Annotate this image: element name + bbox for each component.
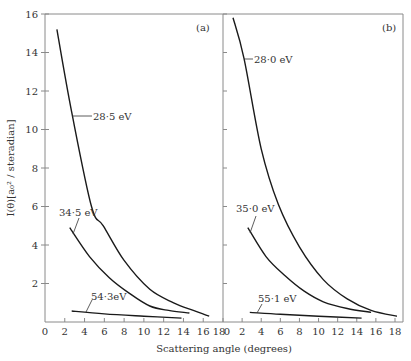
- curve-label-a2: 34·5 eV: [59, 207, 98, 218]
- curve-label-a1: 28·5 eV: [93, 111, 132, 122]
- panel-label-b: (b): [382, 22, 396, 33]
- x-axis-ticks: 024681012141618024681012141618: [42, 318, 402, 337]
- y-tick-label: 14: [25, 47, 38, 58]
- y-tick-label: 8: [32, 163, 38, 174]
- x-tick-label: 4: [258, 326, 264, 337]
- x-tick-label: 16: [370, 326, 383, 337]
- x-tick-label: 6: [101, 326, 107, 337]
- scattering-chart: 246810121416 024681012141618024681012141…: [0, 0, 411, 361]
- x-tick-label: 6: [277, 326, 283, 337]
- panel-label-a: (a): [196, 22, 210, 33]
- y-tick-label: 10: [25, 124, 38, 135]
- curve-34-5-ev: [70, 228, 190, 313]
- x-tick-label: 8: [296, 326, 302, 337]
- y-tick-label: 12: [25, 86, 38, 97]
- curve-label-b2: 35·0 eV: [236, 203, 275, 214]
- x-tick-label: 16: [197, 326, 210, 337]
- curve-54-3ev: [72, 311, 182, 318]
- curve-28-5-ev: [57, 29, 209, 316]
- curve-55-1-ev: [250, 312, 362, 318]
- y-axis-title: I(θ)[a₀² / steradian]: [5, 119, 16, 216]
- x-tick-label: 14: [177, 326, 190, 337]
- x-tick-label: 8: [121, 326, 127, 337]
- y-tick-label: 2: [32, 278, 38, 289]
- x-tick-label: 0: [42, 326, 48, 337]
- x-tick-label: 12: [157, 326, 170, 337]
- leader-line-a2: [73, 218, 79, 234]
- x-tick-label: 12: [331, 326, 344, 337]
- x-tick-label: 2: [62, 326, 68, 337]
- x-tick-label: 4: [81, 326, 87, 337]
- y-tick-label: 4: [32, 240, 38, 251]
- curve-label-b3: 55·1 eV: [258, 293, 297, 304]
- y-tick-label: 6: [32, 201, 38, 212]
- leader-line-b2: [250, 216, 256, 233]
- x-tick-label: 14: [350, 326, 363, 337]
- x-tick-label: 10: [138, 326, 151, 337]
- y-tick-label: 16: [25, 9, 38, 20]
- x-tick-label: 10: [312, 326, 325, 337]
- x-axis-title: Scattering angle (degrees): [156, 343, 292, 354]
- curve-label-b1: 28·0 eV: [254, 54, 293, 65]
- curve-label-a3: 54·3eV: [91, 291, 127, 302]
- x-tick-label: 0: [224, 326, 230, 337]
- y-axis-ticks: 246810121416: [25, 9, 227, 290]
- x-tick-label: 2: [239, 326, 245, 337]
- leader-line-b3: [257, 304, 262, 313]
- x-tick-label: 18: [389, 326, 402, 337]
